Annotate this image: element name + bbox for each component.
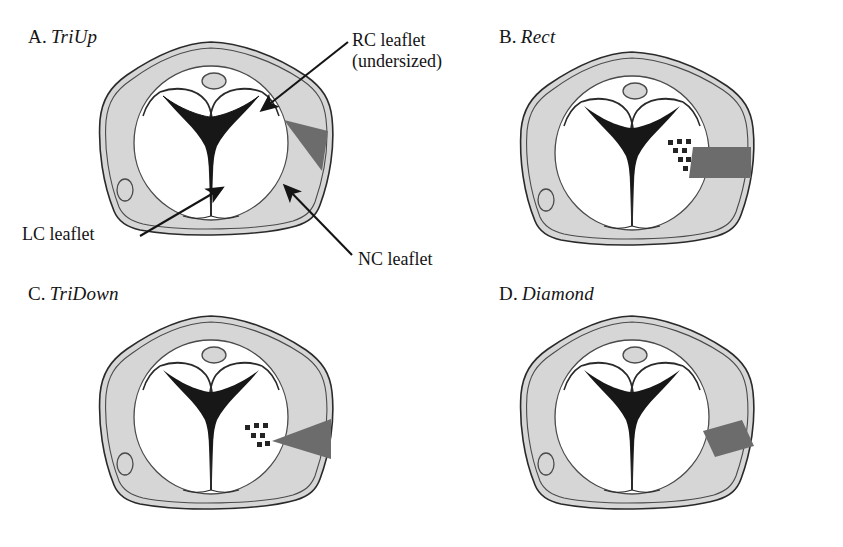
coronary-ostium-top-a: [202, 73, 226, 89]
annotation-lc-leaflet: LC leaflet: [22, 224, 94, 245]
valve-diagram-c: [0, 273, 421, 546]
coronary-ostium-top-b: [623, 83, 647, 99]
patch-rect-b: [689, 147, 751, 178]
coronary-ostium-left-c: [117, 453, 133, 475]
coronary-ostium-left-a: [117, 179, 133, 201]
coronary-ostium-top-d: [623, 347, 647, 363]
valve-diagram-d: [421, 273, 842, 546]
figure-root: A.TriUp: [0, 0, 843, 547]
coronary-ostium-left-d: [538, 453, 554, 475]
annotation-nc-leaflet: NC leaflet: [358, 249, 432, 270]
annotation-rc-line2: (undersized): [352, 51, 442, 72]
panel-d: D.Diamond: [421, 273, 842, 546]
panel-b: B.Rect: [421, 0, 842, 273]
valve-diagram-b: [421, 0, 842, 273]
annotation-lc-line1: LC leaflet: [22, 224, 94, 244]
panel-c: C.TriDown: [0, 273, 421, 546]
annotation-nc-line1: NC leaflet: [358, 249, 432, 269]
coronary-ostium-top-c: [202, 347, 226, 363]
annotation-rc-line1: RC leaflet: [352, 30, 425, 50]
annotation-rc-leaflet: RC leaflet (undersized): [352, 30, 442, 72]
coronary-ostium-left-b: [538, 189, 554, 211]
